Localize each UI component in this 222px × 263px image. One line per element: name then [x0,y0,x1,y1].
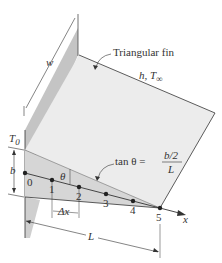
x-axis-label: x [182,213,188,225]
thickness-label: b [10,164,16,176]
fin-name-label: Triangular fin [113,46,175,58]
tan-denominator: L [167,163,174,175]
node-1 [50,178,54,182]
angle-label: θ [60,170,66,182]
node-2 [77,185,81,189]
base-temp-label: T0 [9,132,20,147]
node-label: 0 [27,176,33,188]
node-label: 5 [156,211,162,223]
node-4 [131,199,135,203]
node-3 [104,192,108,196]
triangular-fin-diagram: x 0 1 2 3 4 5 w T0 b θ Δx L Triangular f [0,0,222,263]
node-0 [23,171,27,175]
width-label: w [46,56,54,68]
length-label: L [87,230,94,242]
thickness-tick-bottom [8,194,24,197]
tan-lhs: tan θ = [115,155,145,167]
length-arrow-right [153,248,159,252]
node-5 [158,206,162,210]
wall-lower [25,197,40,238]
node-label: 4 [130,204,136,216]
thickness-arrow-bottom [12,188,16,193]
dx-label: Δx [57,205,69,217]
base-temp-tick [8,147,24,150]
thickness-arrow-top [12,150,16,155]
tan-numerator: b/2 [164,149,179,161]
node-label: 3 [103,197,109,209]
